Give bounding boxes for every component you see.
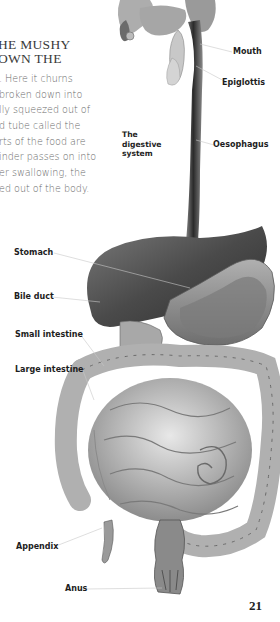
appendix-drawing (102, 520, 113, 563)
rectum-drawing (154, 520, 184, 594)
label-bile-duct: Bile duct (14, 292, 54, 301)
caption-line-1: The (122, 130, 161, 140)
illustration-caption: The digestive system (122, 130, 161, 159)
label-stomach: Stomach (14, 248, 53, 257)
caption-line-3: system (122, 149, 161, 159)
page-number: 21 (249, 598, 262, 614)
label-appendix: Appendix (16, 542, 58, 551)
book-page: HE MUSHY OWN THE . Here it churns broken… (0, 0, 280, 622)
caption-line-2: digestive (122, 140, 161, 150)
label-epiglottis: Epiglottis (222, 78, 265, 87)
label-large-intestine: Large intestine (15, 365, 84, 374)
label-mouth: Mouth (233, 47, 262, 56)
label-anus: Anus (65, 584, 87, 593)
small-intestine-drawing (88, 378, 252, 522)
digestive-system-illustration (0, 0, 280, 622)
label-oesophagus: Oesophagus (213, 140, 269, 149)
oesophagus-drawing (167, 20, 203, 262)
label-small-intestine: Small intestine (15, 330, 83, 339)
